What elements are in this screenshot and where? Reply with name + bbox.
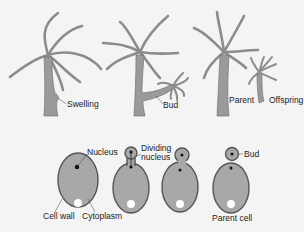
label-cell-wall: Cell wall bbox=[43, 212, 75, 221]
label-bud-hydra: Bud bbox=[163, 101, 178, 110]
label-parent-cell: Parent cell bbox=[212, 214, 252, 223]
label-nucleus: Nucleus bbox=[87, 148, 118, 157]
label-offspring: Offspring bbox=[269, 96, 303, 105]
label-parent: Parent bbox=[229, 96, 254, 105]
label-swelling: Swelling bbox=[67, 100, 99, 109]
budding-diagram bbox=[0, 0, 304, 232]
label-cytoplasm: Cytoplasm bbox=[82, 212, 122, 221]
label-dividing-nucleus-2: nucleus bbox=[141, 153, 170, 162]
label-bud-yeast: Bud bbox=[244, 150, 259, 159]
yeast-cell-1 bbox=[55, 153, 98, 212]
